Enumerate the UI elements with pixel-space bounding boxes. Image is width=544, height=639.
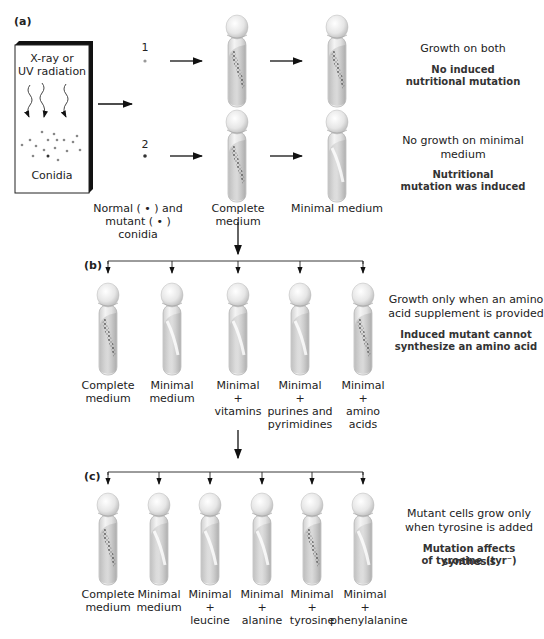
tube-c-alanine [251,493,273,585]
row-2-number: 2 [138,138,152,151]
mutant-conidium-dot [143,154,147,158]
tube-a2-minimal [326,110,348,202]
radiation-title-1: X-ray or [16,52,88,65]
c-tube-3-label: Minimal + leucine [184,588,236,627]
panel-c-label: (c) [84,470,101,483]
tube-c-complete [97,493,119,585]
c-tube-6-label: Minimal + phenylalanine [330,588,400,627]
panel-a-label: (a) [14,15,31,28]
tube-a2-complete [226,110,248,202]
tube-b-purines [289,283,311,375]
row2-observation-2: medium [388,148,538,162]
tube-b-amino-acids [352,283,374,375]
c-tube-1-label: Complete medium [80,588,136,614]
label-minimal-medium: Minimal medium [288,202,386,215]
label-complete-medium: Complete medium [190,202,286,228]
tube-b-minimal [161,283,183,375]
conidia-legend-2: mutant ( • ) conidia [84,215,192,241]
conidia-legend-1: Normal ( • ) and [88,202,188,215]
b-tube-5-label: Minimal + amino acids [335,379,391,431]
conidia-caption: Conidia [16,169,88,182]
row1-observation: Growth on both [388,42,538,56]
b-tube-2-label: Minimal medium [142,379,202,405]
row1-conclusion-2: nutritional mutation [388,75,538,88]
c-tube-2-label: Minimal medium [133,588,185,614]
c-conclusion-2: of tyrosine (tyr⁻) [396,554,542,567]
b-tube-4-label: Minimal + purines and pyrimidines [264,379,336,431]
tube-c-minimal [148,493,170,585]
tube-a1-minimal [326,15,348,107]
b-tube-1-label: Complete medium [78,379,138,405]
tube-b-complete [97,283,119,375]
b-observation-2: acid supplement is provided [388,307,544,321]
c-observation-1: Mutant cells grow only [396,507,542,521]
row2-observation-1: No growth on minimal [388,134,538,148]
normal-conidium-dot [143,59,146,62]
c-tube-4-label: Minimal + alanine [236,588,288,627]
b-tube-3-label: Minimal + vitamins [206,379,270,418]
tube-c-phenylalanine [352,493,374,585]
panel-b-label: (b) [84,259,102,272]
c-observation-2: when tyrosine is added [396,521,542,535]
row2-conclusion-2: mutation was induced [388,180,538,193]
tube-c-leucine [199,493,221,585]
tube-b-vitamins [227,283,249,375]
tube-a1-complete [226,15,248,107]
row-1-number: 1 [138,41,152,54]
b-conclusion-2: synthesize an amino acid [388,340,544,353]
b-observation-1: Growth only when an amino [388,293,544,307]
radiation-title-2: UV radiation [14,65,90,78]
tube-c-tyrosine [301,493,323,585]
